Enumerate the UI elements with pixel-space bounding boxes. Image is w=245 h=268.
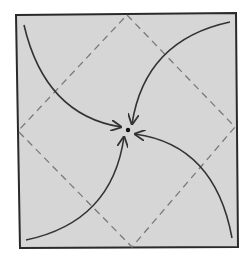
fold-diagram (0, 0, 245, 268)
center-dot (126, 128, 130, 132)
